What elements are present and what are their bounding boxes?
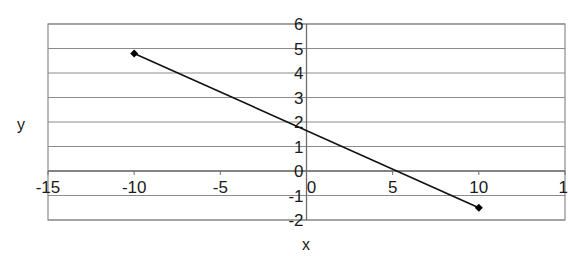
y-tick-label: 4 bbox=[294, 64, 303, 83]
x-tick-label: -15 bbox=[36, 178, 61, 197]
x-tick-label: 1 bbox=[559, 178, 568, 197]
x-tick-label: -10 bbox=[122, 178, 147, 197]
y-tick-label: 0 bbox=[294, 162, 303, 181]
y-tick-label: 6 bbox=[294, 15, 303, 34]
x-tick-label: -5 bbox=[213, 178, 228, 197]
x-axis-label: x bbox=[302, 236, 310, 253]
diamond-marker bbox=[130, 49, 138, 57]
x-tick-label: 10 bbox=[469, 178, 488, 197]
y-tick-label: 5 bbox=[294, 40, 303, 59]
x-tick-label: 0 bbox=[307, 178, 316, 197]
y-tick-label: 3 bbox=[294, 89, 303, 108]
y-tick-label: 1 bbox=[294, 138, 303, 157]
chart-canvas: -2-10123456 -15-10-505101 x y bbox=[0, 0, 568, 256]
y-tick-label: -1 bbox=[288, 187, 303, 206]
y-tick-label: -2 bbox=[288, 211, 303, 230]
x-tick-label: 5 bbox=[388, 178, 397, 197]
y-axis-label: y bbox=[17, 116, 25, 133]
diamond-marker bbox=[475, 204, 483, 212]
